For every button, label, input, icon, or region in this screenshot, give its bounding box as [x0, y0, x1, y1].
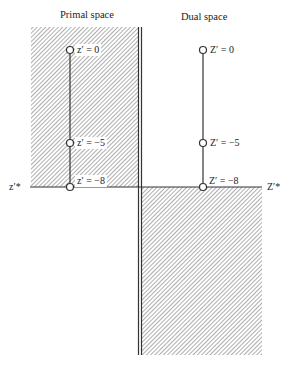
primal-point-5	[67, 140, 74, 147]
primal-label-5: z′ = −5	[75, 137, 107, 149]
dual-axis-label: Z′*	[267, 181, 280, 193]
primal-point-8	[67, 184, 74, 191]
primal-space-title: Primal space	[60, 9, 114, 21]
dual-label-8: Z′ = −8	[209, 175, 239, 187]
dual-point-8	[200, 184, 207, 191]
dual-point-0	[200, 47, 207, 54]
dual-label-0: Z′ = 0	[210, 44, 234, 56]
dual-label-5: Z′ = −5	[210, 137, 240, 149]
primal-axis-label: z′*	[9, 181, 21, 193]
primal-dual-diagram	[0, 0, 297, 370]
primal-label-8: z′ = −8	[75, 175, 107, 187]
primal-point-0	[67, 47, 74, 54]
primal-label-0: z′ = 0	[75, 44, 101, 56]
dual-space-title: Dual space	[181, 11, 227, 23]
dual-shaded-region	[142, 187, 262, 355]
dual-point-5	[200, 140, 207, 147]
